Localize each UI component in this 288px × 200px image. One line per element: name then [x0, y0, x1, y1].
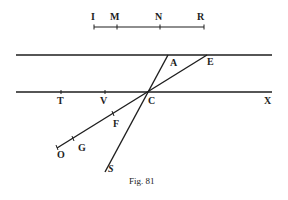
figure-81-diagram: I M N R A E T V C X F G O S Fig. 81	[0, 0, 288, 200]
label-A: A	[170, 57, 178, 68]
label-S: S	[108, 163, 114, 174]
label-C: C	[148, 95, 155, 106]
line-A-S	[105, 55, 168, 172]
label-G: G	[78, 142, 86, 153]
label-R: R	[197, 11, 205, 22]
figure-caption: Fig. 81	[129, 176, 155, 186]
label-O: O	[57, 149, 65, 160]
label-T: T	[57, 95, 64, 106]
label-N: N	[155, 11, 163, 22]
label-X: X	[264, 95, 272, 106]
scale-segment: I M N R	[91, 11, 205, 30]
label-V: V	[100, 95, 108, 106]
label-I: I	[91, 11, 95, 22]
label-F: F	[113, 118, 119, 129]
label-M: M	[110, 11, 120, 22]
label-E: E	[207, 56, 214, 67]
line-E-O	[57, 55, 207, 148]
